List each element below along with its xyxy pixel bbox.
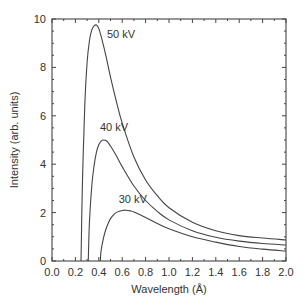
x-tick-label: 0.2	[68, 266, 83, 278]
y-tick-label: 8	[40, 61, 46, 73]
x-tick-label: 0.4	[91, 266, 106, 278]
x-tick-label: 1.8	[255, 266, 270, 278]
x-tick-label: 0.8	[138, 266, 153, 278]
curve-label: 50 kV	[107, 28, 136, 40]
x-tick-label: 1.0	[161, 266, 176, 278]
curve-30kv	[100, 210, 286, 261]
x-tick-label: 1.6	[232, 266, 247, 278]
curve-labels: 50 kV40 kV30 kV	[100, 28, 148, 206]
plot-frame	[52, 19, 286, 261]
x-axis-label: Wavelength (Å)	[131, 283, 206, 295]
curve-50kv	[81, 25, 286, 261]
spectrum-curves	[81, 25, 286, 261]
y-tick-label: 6	[40, 110, 46, 122]
xray-spectrum-chart: 0246810 0.00.20.40.60.81.01.21.41.61.82.…	[0, 0, 305, 305]
x-tick-label: 0.0	[44, 266, 59, 278]
curve-label: 40 kV	[100, 121, 129, 133]
x-tick-label: 1.4	[208, 266, 223, 278]
curve-label: 30 kV	[119, 193, 148, 205]
y-tick-label: 4	[40, 158, 46, 170]
x-tick-label: 2.0	[278, 266, 293, 278]
x-tick-label: 0.6	[115, 266, 130, 278]
y-tick-label: 2	[40, 207, 46, 219]
x-tick-label: 1.2	[185, 266, 200, 278]
y-axis-label: Intensity (arb. units)	[8, 92, 20, 189]
y-axis-ticks: 0246810	[34, 13, 286, 267]
y-tick-label: 10	[34, 13, 46, 25]
